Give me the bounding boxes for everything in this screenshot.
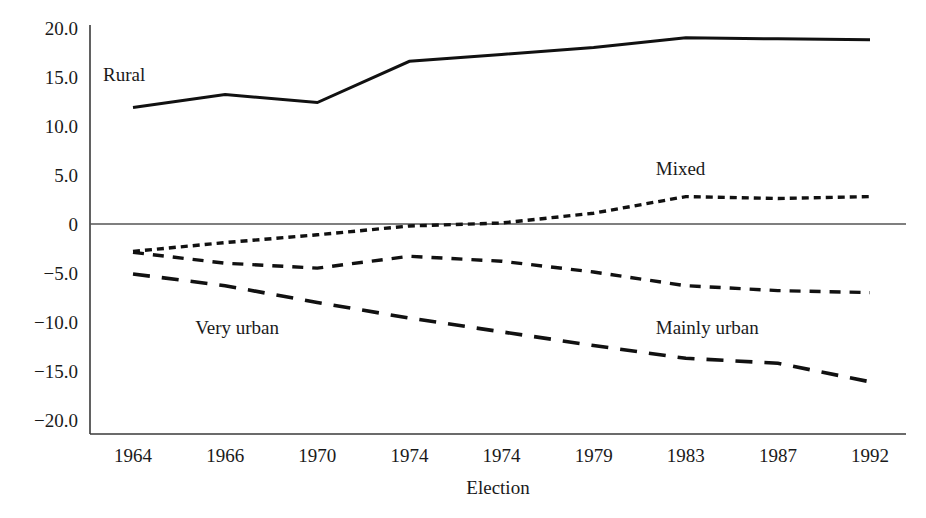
x-axis-tick-label: 1966 — [206, 445, 244, 466]
y-axis-tick-label: 10.0 — [45, 116, 78, 137]
x-axis-group: 196419661970197419741979198319871992 Ele… — [90, 434, 906, 498]
y-axis-tick-labels: 20.015.010.05.00−5.0−10.0−15.0−20.0 — [34, 18, 78, 431]
line-chart: 20.015.010.05.00−5.0−10.0−15.0−20.0 1964… — [0, 0, 926, 518]
x-axis-tick-label: 1970 — [298, 445, 336, 466]
y-axis-tick-label: −10.0 — [34, 312, 78, 333]
y-axis-tick-label: 15.0 — [45, 67, 78, 88]
series-label-mainly-urban: Mainly urban — [656, 317, 759, 338]
y-axis-tick-label: −15.0 — [34, 361, 78, 382]
y-axis-tick-label: 5.0 — [54, 165, 78, 186]
x-axis-tick-label: 1983 — [667, 445, 705, 466]
y-axis-group: 20.015.010.05.00−5.0−10.0−15.0−20.0 — [34, 18, 90, 434]
x-axis-tick-label: 1987 — [759, 445, 797, 466]
x-axis-tick-label: 1979 — [575, 445, 613, 466]
series-line-rural — [133, 38, 870, 108]
x-axis-tick-label: 1974 — [483, 445, 522, 466]
y-axis-tick-label: 0 — [69, 214, 79, 235]
y-axis-tick-label: −5.0 — [44, 263, 78, 284]
series-label-rural: Rural — [103, 64, 145, 85]
series-label-very-urban: Very urban — [195, 317, 279, 338]
x-axis-tick-labels: 196419661970197419741979198319871992 — [114, 445, 889, 466]
series-label-mixed: Mixed — [656, 158, 706, 179]
y-axis-tick-label: 20.0 — [45, 18, 78, 39]
x-axis-tick-label: 1974 — [390, 445, 429, 466]
x-axis-tick-label: 1992 — [851, 445, 889, 466]
series-line-mainly-urban — [133, 252, 870, 292]
x-axis-title: Election — [466, 477, 530, 498]
y-axis-tick-label: −20.0 — [34, 410, 78, 431]
x-axis-tick-label: 1964 — [114, 445, 153, 466]
chart-container: 20.015.010.05.00−5.0−10.0−15.0−20.0 1964… — [0, 0, 926, 518]
